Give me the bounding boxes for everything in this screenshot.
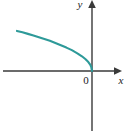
graph-figure: y x 0 <box>0 0 132 134</box>
y-axis-arrow-icon <box>88 0 96 8</box>
figure-container: y x 0 <box>0 0 132 134</box>
curve-path <box>17 31 92 71</box>
x-axis-label: x <box>118 74 124 86</box>
y-axis-label: y <box>77 0 83 10</box>
origin-label: 0 <box>83 74 89 86</box>
